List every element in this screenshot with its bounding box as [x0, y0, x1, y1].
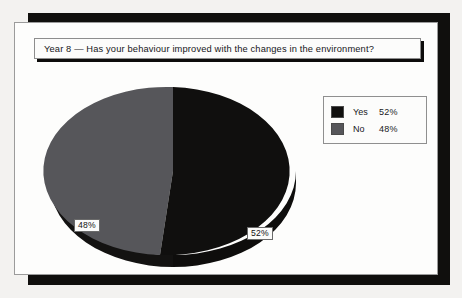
chart-panel: Year 8 — Has your behaviour improved wit… [14, 22, 438, 275]
legend-swatch-no [331, 123, 344, 135]
legend-value-yes: 52% [379, 107, 398, 117]
legend-label-yes: Yes [353, 107, 379, 117]
legend-item-no[interactable]: No 48% [331, 120, 419, 137]
pie-label-no: 48% [74, 219, 100, 232]
chart-title-box: Year 8 — Has your behaviour improved wit… [34, 38, 421, 59]
scanned-page-background: Year 8 — Has your behaviour improved wit… [0, 0, 462, 298]
legend-swatch-yes [331, 106, 344, 118]
chart-title-container: Year 8 — Has your behaviour improved wit… [34, 38, 421, 59]
pie-slice-no[interactable] [43, 87, 173, 255]
legend-item-yes[interactable]: Yes 52% [331, 103, 419, 120]
chart-plot-area: 48% 52% Yes 52% No 48% [15, 67, 439, 274]
chart-legend: Yes 52% No 48% [323, 96, 427, 144]
legend-value-no: 48% [379, 124, 398, 134]
page-title: Year 8 — Has your behaviour improved wit… [35, 44, 374, 54]
pie-label-yes: 52% [247, 227, 273, 240]
legend-label-no: No [353, 124, 379, 134]
